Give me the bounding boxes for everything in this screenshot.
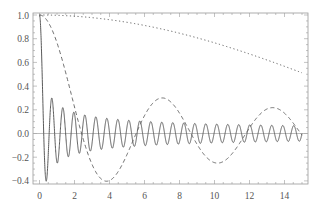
x-tick-label: 6 [142, 191, 147, 201]
y-tick-labels: −0.4−0.20.00.20.40.60.81.0 [12, 11, 29, 187]
x-tick-label: 4 [107, 191, 112, 201]
x-tick-labels: 02468101214 [37, 191, 289, 201]
series-j0-10x-solid [40, 15, 303, 181]
series-j0-x-over-10-dotted [40, 15, 303, 73]
y-tick-label: 0.0 [17, 129, 29, 139]
y-tick-label: 0.2 [17, 105, 29, 115]
x-tick-label: 10 [210, 191, 220, 201]
y-tick-label: 1.0 [17, 11, 29, 21]
x-tick-label: 12 [245, 191, 255, 201]
y-tick-label: −0.4 [12, 176, 29, 186]
series-j0-x-dashed [40, 15, 303, 181]
x-tick-label: 14 [280, 191, 290, 201]
x-tick-label: 8 [177, 191, 182, 201]
y-tick-label: 0.6 [17, 58, 29, 68]
chart: 02468101214 −0.4−0.20.00.20.40.60.81.0 [0, 0, 326, 209]
x-tick-label: 2 [72, 191, 77, 201]
plot-frame [33, 13, 308, 184]
series-layer [40, 15, 303, 181]
tick-marks [33, 13, 308, 184]
y-tick-label: −0.2 [12, 153, 29, 163]
y-tick-label: 0.8 [17, 34, 29, 44]
y-tick-label: 0.4 [17, 82, 29, 92]
x-tick-label: 0 [37, 191, 42, 201]
